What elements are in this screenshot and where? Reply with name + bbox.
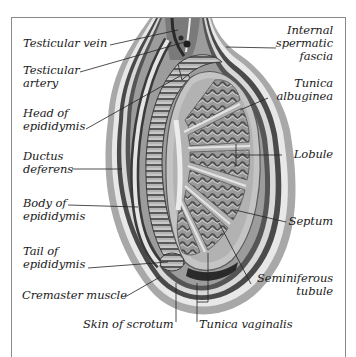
label-text: deferens (23, 163, 73, 176)
label-tunica-vaginalis: Tunica vaginalis (199, 318, 292, 331)
label-testicular-vein: Testicular vein (23, 37, 107, 50)
label-text: Tunica vaginalis (199, 317, 292, 331)
label-internal-spermatic-fascia: Internal spermatic fascia (276, 24, 333, 63)
label-text: Testicular vein (23, 36, 107, 50)
label-lobule: Lobule (294, 148, 333, 161)
label-text: Cremaster muscle (22, 288, 127, 302)
label-text: artery (23, 77, 80, 90)
label-septum: Septum (289, 215, 333, 228)
label-text: Septum (289, 214, 333, 228)
label-text: Skin of scrotum (83, 317, 174, 331)
label-head-of-epididymis: Head of epididymis (23, 107, 85, 133)
label-text: albuginea (276, 90, 333, 103)
label-skin-of-scrotum: Skin of scrotum (83, 318, 174, 331)
label-text: epididymis (23, 120, 85, 133)
label-text: Lobule (294, 147, 333, 161)
label-body-of-epididymis: Body of epididymis (23, 197, 85, 223)
label-text: epididymis (23, 210, 85, 223)
label-tail-of-epididymis: Tail of epididymis (23, 245, 85, 271)
label-ductus-deferens: Ductus deferens (23, 150, 73, 176)
label-testicular-artery: Testicular artery (23, 64, 80, 90)
label-cremaster-muscle: Cremaster muscle (22, 289, 127, 302)
label-tunica-albuginea: Tunica albuginea (276, 77, 333, 103)
label-text: fascia (276, 50, 333, 63)
label-text: epididymis (23, 258, 85, 271)
label-text: tubule (257, 285, 333, 298)
label-seminiferous-tubule: Seminiferous tubule (257, 272, 333, 298)
